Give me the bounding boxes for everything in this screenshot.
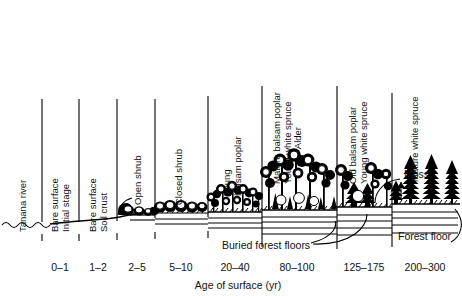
stage-label-bare-surface-crust: Bare surface Soil crust: [88, 178, 109, 232]
open-shrub-outlines: [124, 206, 151, 214]
stage-label-line: Old balsam poplar: [348, 101, 359, 184]
stage-label-bare-surface-initial: Bare surface Initial stage: [50, 178, 71, 232]
stage-label-line: Alder: [293, 92, 304, 184]
stage-label-line: Closed shrub: [174, 149, 185, 205]
age-tick-label: 0–1: [51, 261, 69, 273]
stage-label-line: Young: [222, 136, 233, 196]
forest-floor-label: Forest floor: [398, 230, 451, 242]
succession-diagram: Tanana river Bare surface Initial stage …: [0, 0, 462, 296]
moss-label: Moss: [404, 168, 429, 180]
stage-label-line: Soil crust: [99, 178, 110, 232]
buried-forest-floors-leaders: [311, 214, 367, 244]
stage-label-old-poplar-young-spruce: Old balsam poplar Young white spruce: [348, 101, 369, 184]
stage-label-line: Bare surface: [88, 178, 99, 232]
stage-label-line: Initial stage: [61, 178, 72, 232]
stage-label-mature-poplar-young-spruce-alder: Mature balsam poplar Young white spruce …: [272, 92, 304, 184]
stage-label-line: balsam poplar: [233, 136, 244, 196]
age-tick-label: 1–2: [89, 261, 107, 273]
axis-title: Age of surface (yr): [195, 279, 281, 291]
stage-label-line: Mature balsam poplar: [272, 92, 283, 184]
stage-label-young-balsam-poplar: Young balsam poplar: [222, 136, 243, 196]
stage-label-line: Bare surface: [50, 178, 61, 232]
age-tick-label: 80–100: [279, 261, 314, 273]
stage-label-line: Open shrub: [133, 155, 144, 205]
age-tick-label: 2–5: [128, 261, 146, 273]
stage-label-open-shrub: Open shrub: [133, 155, 144, 205]
buried-forest-floors-label: Buried forest floors: [222, 239, 310, 251]
old-stage-alder: [352, 190, 363, 201]
age-tick-label: 20–40: [220, 261, 249, 273]
axis-ticks: [42, 231, 208, 241]
stage-label-line: Tanana river: [18, 180, 29, 232]
age-tick-label: 200–300: [405, 261, 446, 273]
stage-label-closed-shrub: Closed shrub: [174, 149, 185, 205]
age-tick-label: 125–175: [344, 261, 385, 273]
stage-label-line: Young white spruce: [359, 101, 370, 184]
age-tick-label: 5–10: [169, 261, 192, 273]
stage-label-tanana-river: Tanana river: [18, 180, 29, 232]
